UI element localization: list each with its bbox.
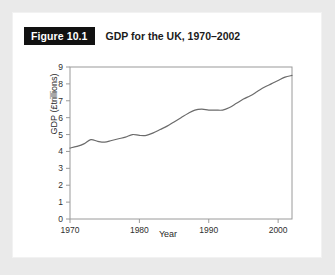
- y-tick-label: 3: [58, 163, 63, 173]
- y-tick-label: 1: [58, 197, 63, 207]
- line-chart: 0123456789 1970198019902000: [24, 51, 312, 247]
- y-tick-label: 8: [58, 79, 63, 89]
- y-tick-label: 5: [58, 130, 63, 140]
- y-axis-ticks: 0123456789: [58, 62, 70, 224]
- figure-number-badge: Figure 10.1: [24, 27, 95, 45]
- y-tick-label: 4: [58, 146, 63, 156]
- y-tick-label: 0: [58, 214, 63, 224]
- x-tick-label: 2000: [269, 225, 288, 235]
- plot-frame: [70, 67, 292, 219]
- chart-plot-area: GDP (£trillions) Year 0123456789 1970198…: [24, 51, 312, 247]
- y-tick-label: 6: [58, 113, 63, 123]
- figure-header: Figure 10.1 GDP for the UK, 1970–2002: [24, 27, 240, 45]
- y-tick-label: 9: [58, 62, 63, 72]
- x-tick-label: 1990: [199, 225, 218, 235]
- x-tick-label: 1980: [130, 225, 149, 235]
- figure-title: GDP for the UK, 1970–2002: [106, 30, 241, 42]
- y-tick-label: 7: [58, 96, 63, 106]
- x-tick-label: 1970: [61, 225, 80, 235]
- y-tick-label: 2: [58, 180, 63, 190]
- figure-page: Figure 10.1 GDP for the UK, 1970–2002 GD…: [0, 0, 335, 275]
- x-axis-ticks: 1970198019902000: [61, 219, 288, 235]
- figure-card: Figure 10.1 GDP for the UK, 1970–2002 GD…: [12, 12, 322, 258]
